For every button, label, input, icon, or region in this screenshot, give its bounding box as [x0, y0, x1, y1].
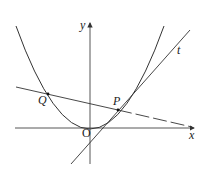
tangent-line-t	[71, 30, 190, 164]
point-p-label: P	[112, 94, 121, 108]
origin-label: O	[82, 126, 91, 140]
point-p	[117, 109, 120, 112]
secant-line-extension	[118, 110, 192, 127]
tangent-label: t	[177, 43, 181, 57]
y-axis-label: y	[79, 18, 86, 32]
point-q-label: Q	[38, 93, 47, 107]
parabola-diagram: y x O P Q t	[0, 0, 204, 171]
x-axis-label: x	[188, 128, 195, 142]
secant-line-qp	[16, 87, 118, 110]
point-q	[47, 93, 50, 96]
